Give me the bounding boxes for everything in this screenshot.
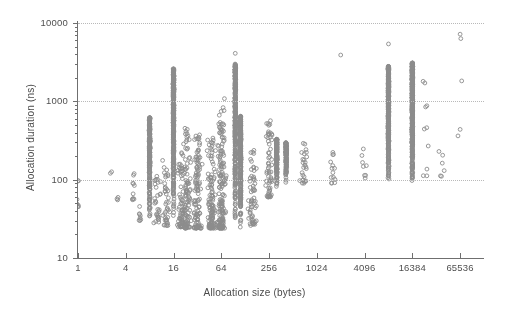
y-minor-tick	[75, 40, 78, 41]
y-minor-tick	[75, 234, 78, 235]
y-minor-tick	[75, 109, 78, 110]
y-minor-tick	[75, 156, 78, 157]
y-minor-tick	[75, 211, 78, 212]
y-tick-label-10: 10	[8, 252, 68, 263]
y-minor-tick	[75, 197, 78, 198]
x-tick-1024	[317, 253, 318, 258]
y-minor-tick	[75, 54, 78, 55]
x-tick-65536	[460, 253, 461, 258]
y-axis-line	[77, 21, 78, 259]
y-minor-tick	[75, 64, 78, 65]
x-tick-256	[269, 253, 270, 258]
x-axis-line	[78, 258, 484, 259]
plot-area	[78, 23, 484, 258]
y-minor-tick	[75, 203, 78, 204]
y-minor-tick	[75, 133, 78, 134]
x-tick-64	[221, 253, 222, 258]
chart-figure: 1416642561024409616384655361010010001000…	[0, 0, 509, 315]
x-tick-4	[126, 253, 127, 258]
gridline-10000	[78, 23, 484, 24]
x-tick-1	[78, 253, 79, 258]
y-tick-label-1000: 1000	[8, 95, 68, 106]
y-tick-100	[73, 180, 78, 181]
x-axis-title: Allocation size (bytes)	[0, 287, 509, 298]
scatter-canvas	[78, 23, 484, 258]
y-minor-tick	[75, 47, 78, 48]
y-minor-tick	[75, 221, 78, 222]
y-tick-label-100: 100	[8, 174, 68, 185]
x-tick-label-65536: 65536	[430, 262, 490, 273]
y-minor-tick	[75, 105, 78, 106]
gridline-1000	[78, 101, 484, 102]
y-axis-title: Allocation duration (ns)	[25, 28, 36, 248]
y-minor-tick	[75, 113, 78, 114]
x-tick-4096	[365, 253, 366, 258]
x-tick-16	[174, 253, 175, 258]
y-minor-tick	[75, 142, 78, 143]
y-tick-10000	[73, 23, 78, 24]
x-tick-16384	[412, 253, 413, 258]
y-tick-1000	[73, 101, 78, 102]
y-minor-tick	[75, 183, 78, 184]
y-minor-tick	[75, 187, 78, 188]
gridline-100	[78, 180, 484, 181]
y-minor-tick	[75, 31, 78, 32]
y-minor-tick	[75, 35, 78, 36]
y-minor-tick	[75, 119, 78, 120]
y-minor-tick	[75, 192, 78, 193]
y-tick-10	[73, 258, 78, 259]
y-minor-tick	[75, 27, 78, 28]
y-tick-label-10000: 10000	[8, 17, 68, 28]
y-minor-tick	[75, 78, 78, 79]
y-minor-tick	[75, 125, 78, 126]
